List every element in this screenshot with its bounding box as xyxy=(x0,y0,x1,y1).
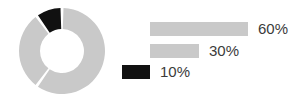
legend-item-60[interactable]: 60% xyxy=(0,19,308,39)
legend-label-10: 10% xyxy=(160,62,190,82)
legend-swatch-bar-30 xyxy=(150,44,199,58)
legend-label-60: 60% xyxy=(258,19,288,39)
legend-swatch-square-10 xyxy=(122,65,150,79)
legend-item-30[interactable]: 30% xyxy=(0,41,308,61)
legend-swatch-bar-60 xyxy=(150,22,248,36)
legend-item-10[interactable]: 10% xyxy=(0,62,308,82)
donut-chart-figure: 60% 30% 10% xyxy=(0,0,308,100)
legend-label-30: 30% xyxy=(209,41,239,61)
chart-legend: 60% 30% 10% xyxy=(0,0,308,100)
